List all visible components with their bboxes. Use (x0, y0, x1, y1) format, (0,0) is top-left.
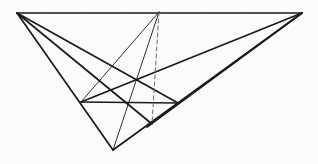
figure-canvas (0, 0, 318, 164)
figure-background (0, 0, 318, 164)
perspective-line-diagram (0, 0, 318, 164)
mid-horizontal (81, 102, 178, 103)
